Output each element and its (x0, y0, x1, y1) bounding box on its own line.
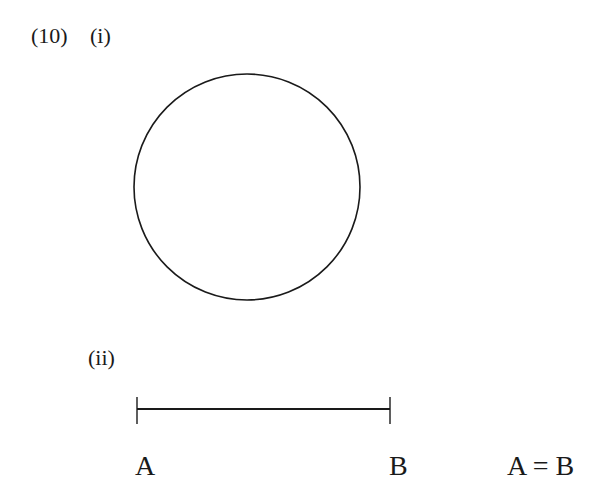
endpoint-a-label: A (135, 452, 155, 480)
part-ii-label: (ii) (88, 347, 115, 369)
endpoint-b-label: B (389, 452, 408, 480)
diagram-canvas (0, 0, 610, 494)
part-i-label: (i) (90, 25, 111, 47)
equation-label: A = B (507, 452, 574, 480)
question-number: (10) (31, 25, 68, 47)
circle-figure (134, 74, 360, 300)
line-segment-ab (137, 397, 390, 424)
